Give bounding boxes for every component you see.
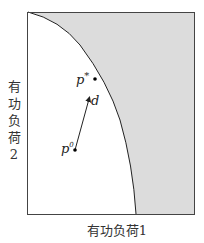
label-d: d (91, 93, 99, 108)
infeasible-region (28, 12, 194, 214)
y-axis-label-char: 有 (2, 78, 26, 95)
point-p-star (93, 77, 97, 81)
y-axis-label-char: 2 (2, 146, 26, 163)
y-axis-label-char: 功 (2, 95, 26, 112)
y-axis-label-char: 负 (2, 112, 26, 129)
x-axis-label: 有功负荷1 (0, 220, 204, 239)
y-axis-label: 有 功 负 荷 2 (2, 78, 26, 163)
label-p-star: p* (76, 70, 89, 87)
direction-arrow (75, 99, 89, 150)
y-axis-label-char: 荷 (2, 129, 26, 146)
diagram-canvas: p* d p0 (0, 0, 204, 243)
label-p-zero: p0 (61, 141, 74, 156)
